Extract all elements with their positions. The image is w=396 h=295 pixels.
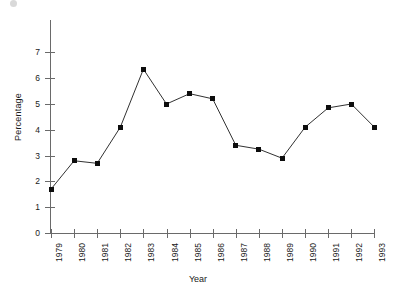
y-axis-tick bbox=[45, 52, 55, 53]
x-axis-tick-label: 1987 bbox=[240, 243, 249, 262]
x-axis-tick-label: 1980 bbox=[78, 243, 87, 262]
x-axis-title: Year bbox=[0, 274, 396, 284]
x-axis-tick bbox=[51, 229, 52, 238]
data-point bbox=[141, 67, 146, 72]
data-point bbox=[187, 91, 192, 96]
y-axis-title-text: Percentage bbox=[13, 92, 23, 140]
x-axis-tick-label: 1982 bbox=[124, 243, 133, 262]
x-axis-tick-label: 1989 bbox=[286, 243, 295, 262]
data-point bbox=[164, 102, 169, 107]
y-axis-tick-label: 2 bbox=[24, 177, 40, 186]
data-point bbox=[49, 187, 54, 192]
x-axis-tick-label: 1979 bbox=[55, 243, 64, 262]
x-axis-tick bbox=[167, 229, 168, 238]
x-axis-tick bbox=[328, 229, 329, 238]
y-axis-tick bbox=[45, 78, 55, 79]
data-point bbox=[303, 125, 308, 130]
x-axis-tick bbox=[143, 229, 144, 238]
y-axis-title: Percentage bbox=[6, 0, 30, 233]
x-axis-tick bbox=[282, 229, 283, 238]
data-point bbox=[372, 125, 377, 130]
y-axis-tick-label: 7 bbox=[24, 48, 40, 57]
x-axis-tick bbox=[74, 229, 75, 238]
x-axis-tick-label: 1988 bbox=[263, 243, 272, 262]
data-point bbox=[256, 147, 261, 152]
x-axis-tick bbox=[236, 229, 237, 238]
x-axis-tick-label: 1985 bbox=[194, 243, 203, 262]
x-axis-tick-label: 1981 bbox=[101, 243, 110, 262]
data-point bbox=[72, 158, 77, 163]
data-point bbox=[210, 96, 215, 101]
x-axis-tick bbox=[351, 229, 352, 238]
y-axis-tick-label: 5 bbox=[24, 100, 40, 109]
x-axis-tick-label: 1993 bbox=[378, 243, 387, 262]
x-axis-tick bbox=[97, 229, 98, 238]
data-point bbox=[349, 102, 354, 107]
x-axis-tick-label: 1990 bbox=[309, 243, 318, 262]
y-axis-tick bbox=[45, 104, 55, 105]
y-axis-tick bbox=[45, 156, 55, 157]
x-axis-title-text: Year bbox=[189, 274, 207, 284]
y-axis-tick bbox=[45, 207, 55, 208]
data-point bbox=[233, 143, 238, 148]
x-axis-tick-label: 1986 bbox=[217, 243, 226, 262]
y-axis-tick-label: 6 bbox=[24, 74, 40, 83]
x-axis-tick bbox=[259, 229, 260, 238]
data-point bbox=[95, 161, 100, 166]
x-axis-tick-label: 1991 bbox=[332, 243, 341, 262]
x-axis-tick-label: 1992 bbox=[355, 243, 364, 262]
data-point bbox=[118, 125, 123, 130]
y-axis-tick-label: 4 bbox=[24, 126, 40, 135]
x-axis-tick bbox=[120, 229, 121, 238]
x-axis-tick bbox=[213, 229, 214, 238]
x-axis-tick-label: 1983 bbox=[147, 243, 156, 262]
data-point bbox=[280, 156, 285, 161]
line-chart: Percentage 01234567 19791980198119821983… bbox=[0, 0, 396, 295]
y-axis-tick bbox=[45, 233, 55, 234]
x-axis-tick bbox=[190, 229, 191, 238]
y-axis-tick bbox=[45, 130, 55, 131]
x-axis-tick bbox=[374, 229, 375, 238]
x-axis-tick bbox=[305, 229, 306, 238]
data-point bbox=[326, 105, 331, 110]
y-axis-tick-label: 0 bbox=[24, 229, 40, 238]
y-axis-tick-label: 1 bbox=[24, 203, 40, 212]
x-axis-tick-label: 1984 bbox=[171, 243, 180, 262]
y-axis-tick-label: 3 bbox=[24, 152, 40, 161]
y-axis-tick bbox=[45, 181, 55, 182]
